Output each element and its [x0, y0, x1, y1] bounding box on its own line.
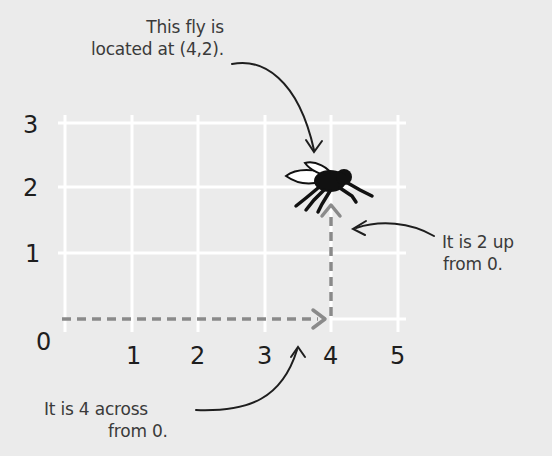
x-tick-4: 4 — [323, 342, 338, 370]
up-label-line-1: It is 2 up — [442, 231, 514, 253]
x-tick-0: 0 — [36, 328, 51, 356]
x-tick-2: 2 — [190, 342, 205, 370]
y-tick-3: 3 — [23, 111, 38, 139]
across-label-line-1: It is 4 across — [44, 398, 168, 420]
up-label-line-2: from 0. — [442, 253, 514, 275]
up-pointer-arrowhead — [353, 221, 366, 235]
fly-pointer-arrow — [232, 63, 314, 150]
fly-location-label: This fly is located at (4,2). — [56, 16, 224, 60]
across-pointer-arrow — [196, 350, 297, 410]
x-tick-1: 1 — [126, 342, 141, 370]
y-tick-1: 1 — [25, 240, 40, 268]
x-tick-5: 5 — [390, 342, 405, 370]
fly-label-line-2: located at (4,2). — [56, 38, 224, 60]
up-label: It is 2 up from 0. — [442, 231, 514, 275]
across-dashed-arrow — [62, 310, 325, 328]
across-label-line-2: from 0. — [44, 420, 168, 442]
fly-label-line-1: This fly is — [56, 16, 224, 38]
across-label: It is 4 across from 0. — [44, 398, 168, 442]
grid-lines — [58, 115, 406, 332]
across-pointer-arrowhead — [291, 347, 305, 357]
up-pointer-arrow — [356, 223, 434, 236]
y-tick-2: 2 — [23, 174, 38, 202]
x-tick-3: 3 — [257, 342, 272, 370]
coordinate-grid — [0, 0, 552, 456]
